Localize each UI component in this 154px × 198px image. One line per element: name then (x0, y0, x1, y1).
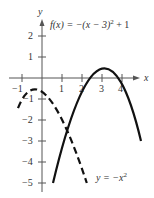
y-tick-label-m3: −3 (22, 135, 33, 146)
x-axis-arrow-icon (133, 76, 140, 81)
y-axis-label: y (37, 6, 43, 17)
f-equation-label: f(x) = −(x − 3)2 + 1 (50, 18, 129, 31)
y-axis-arrow-icon (40, 19, 45, 26)
x-tick-label-1: 1 (59, 83, 64, 94)
y-tick-label-1: 1 (28, 51, 33, 62)
x-tick-label-m1: −1 (12, 83, 23, 94)
x-axis-label: x (143, 72, 149, 83)
y-tick-label-m2: −2 (22, 114, 33, 125)
x-tick-label-3: 3 (99, 83, 104, 94)
y-tick-label-2: 2 (28, 30, 33, 41)
curve-f (53, 68, 141, 183)
g-equation-label: y = −x2 (95, 171, 127, 183)
y-tick-label-m5: −5 (22, 177, 33, 188)
y-tick-label-m4: −4 (22, 156, 33, 167)
chart-canvas: x y −1 1 2 3 4 2 1 −1 −2 −3 −4 −5 f(x) =… (0, 0, 154, 198)
